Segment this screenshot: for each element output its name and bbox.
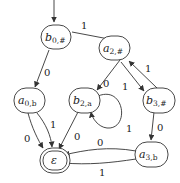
- edge-label-a3-eps-0: 0: [97, 137, 103, 148]
- edge-a3-eps-0: [64, 149, 136, 155]
- edge-b3-a2: [129, 61, 157, 88]
- edge-label-b2-loop: 1: [126, 123, 132, 134]
- edge-label-a2-b3: 1: [122, 81, 128, 92]
- edge-label-b0-a2: 1: [81, 20, 87, 31]
- edge-label-b2-eps: 0: [74, 131, 80, 142]
- state-a2: a2,#: [99, 36, 130, 60]
- edge-b3-a3: [151, 112, 154, 140]
- state-a0: a0,b: [14, 88, 45, 113]
- edge-label-a0-eps-1: 1: [50, 119, 56, 130]
- state-a3: a3,b: [135, 142, 168, 167]
- edge-label-b3-a2: 1: [145, 63, 151, 74]
- edge-label-a0-eps-0: 0: [24, 133, 30, 144]
- edge-a3-eps-1: [64, 159, 136, 164]
- edge-label-a3-eps-1: 1: [99, 167, 105, 178]
- state-b2: b2,a: [69, 88, 100, 113]
- edge-label-a2-b2: 0: [103, 78, 109, 89]
- state-eps-accepting: ε: [40, 148, 70, 173]
- state-b3: b3,#: [143, 88, 175, 113]
- automaton-diagram: 1 0 0 1 1 1 0 1 0 0 0 1: [0, 0, 180, 183]
- state-eps-label: ε: [51, 154, 57, 167]
- state-b0: b0,#: [41, 25, 71, 49]
- edge-label-b3-a3: 0: [157, 122, 163, 133]
- edge-label-b0-a0: 0: [44, 67, 50, 78]
